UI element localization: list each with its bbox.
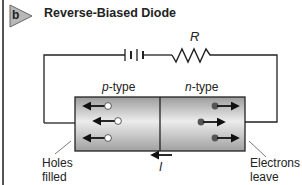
holes-filled-line2: filled xyxy=(42,170,73,184)
battery-icon xyxy=(125,49,143,61)
holes-filled-line1: Holes xyxy=(42,156,73,170)
p-type-label-suffix: -type xyxy=(109,80,136,94)
resistor-label: R xyxy=(190,29,199,44)
p-type-label-prefix: p xyxy=(102,80,109,94)
resistor-icon xyxy=(172,49,214,62)
electrons-leave-label: Electrons leave xyxy=(250,156,300,184)
n-type-label-suffix: -type xyxy=(192,80,219,94)
electrons-leave-line1: Electrons xyxy=(250,156,300,170)
electrons-leave-line2: leave xyxy=(250,170,300,184)
holes-filled-label: Holes filled xyxy=(42,156,73,184)
holes-leader-line xyxy=(55,141,71,154)
n-type-label-prefix: n xyxy=(185,80,192,94)
electrons-leader-line xyxy=(249,141,266,157)
n-type-label: n-type xyxy=(185,80,218,94)
current-label: I xyxy=(159,160,162,174)
p-type-label: p-type xyxy=(102,80,135,94)
